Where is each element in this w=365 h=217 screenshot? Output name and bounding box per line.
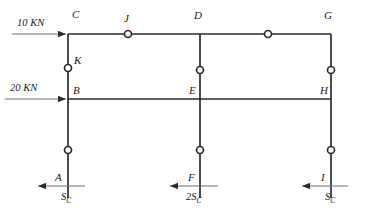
hinge-right-column-G-icon xyxy=(328,67,335,74)
reaction-F-subscript: C xyxy=(197,196,202,205)
frame-structure-svg xyxy=(0,0,365,217)
node-label-B: B xyxy=(73,85,80,96)
node-label-H: H xyxy=(320,85,328,96)
frame-diagram-canvas: A B C D E F G H I J K 10 KN 20 KN SC 2SC… xyxy=(0,0,365,217)
reaction-I-subscript: C xyxy=(330,196,335,205)
node-label-D: D xyxy=(194,10,202,21)
node-label-A: A xyxy=(55,172,62,183)
node-label-C: C xyxy=(72,9,79,20)
node-label-G: G xyxy=(324,10,332,21)
hinge-K-icon xyxy=(65,65,72,72)
hinge-J-icon xyxy=(125,31,132,38)
node-label-E: E xyxy=(189,85,196,96)
hinge-mid-column-D-icon xyxy=(197,67,204,74)
reaction-label-A: SC xyxy=(61,192,71,205)
reaction-A-subscript: C xyxy=(66,196,71,205)
node-label-K: K xyxy=(74,55,81,66)
frame-members xyxy=(68,34,331,198)
hinge-lower-left-icon xyxy=(65,147,72,154)
hinge-top-right-icon xyxy=(265,31,272,38)
load-label-10kn: 10 KN xyxy=(17,18,44,29)
node-label-F: F xyxy=(188,172,195,183)
node-label-J: J xyxy=(124,13,129,24)
reaction-label-F: 2SC xyxy=(186,192,202,205)
reaction-label-I: SC xyxy=(325,192,335,205)
hinge-lower-mid-icon xyxy=(197,147,204,154)
node-label-I: I xyxy=(321,172,325,183)
hinge-lower-right-icon xyxy=(328,147,335,154)
load-label-20kn: 20 KN xyxy=(10,83,37,94)
